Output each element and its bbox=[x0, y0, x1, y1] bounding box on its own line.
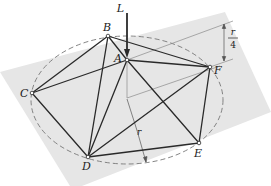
node-label-E: E bbox=[193, 147, 202, 160]
height-label-denominator: 4 bbox=[230, 40, 236, 50]
load-arrow bbox=[124, 13, 130, 58]
joint-A bbox=[125, 58, 129, 62]
node-label-B: B bbox=[102, 21, 111, 34]
joint-F bbox=[208, 65, 212, 69]
height-label-numerator: r bbox=[231, 27, 236, 37]
node-label-D: D bbox=[81, 160, 91, 173]
joint-C bbox=[30, 91, 34, 95]
joint-B bbox=[106, 34, 110, 38]
node-label-A: A bbox=[113, 52, 122, 65]
radius-label: r bbox=[137, 127, 142, 137]
space-truss-diagram: r 4 r L A B C D E F bbox=[0, 0, 271, 186]
load-label: L bbox=[116, 2, 124, 15]
joint-D bbox=[86, 155, 90, 159]
node-label-F: F bbox=[213, 64, 222, 77]
node-label-C: C bbox=[20, 87, 29, 100]
joint-E bbox=[197, 141, 201, 145]
